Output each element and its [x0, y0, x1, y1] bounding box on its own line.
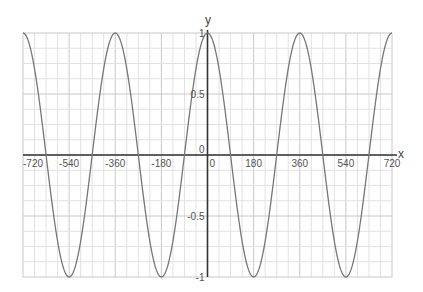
x-axis-label: x — [398, 147, 404, 161]
x-tick-label: -720 — [23, 158, 43, 169]
cosine-chart: -720-540-360-1800180360540720-1-0.500.51… — [0, 0, 423, 292]
y-tick-label: 0.5 — [191, 89, 205, 100]
axes — [23, 30, 397, 277]
y-tick-label: -0.5 — [187, 211, 205, 222]
x-tick-label: 0 — [210, 158, 216, 169]
y-tick-label: -1 — [196, 272, 205, 283]
y-tick-label: 0 — [199, 144, 205, 155]
x-tick-label: -540 — [59, 158, 79, 169]
x-tick-label: -180 — [151, 158, 171, 169]
x-tick-label: -360 — [105, 158, 125, 169]
y-tick-label: 1 — [199, 28, 205, 39]
y-axis-label: y — [205, 13, 211, 27]
x-tick-label: 540 — [338, 158, 355, 169]
x-tick-label: 360 — [291, 158, 308, 169]
x-tick-label: 180 — [245, 158, 262, 169]
